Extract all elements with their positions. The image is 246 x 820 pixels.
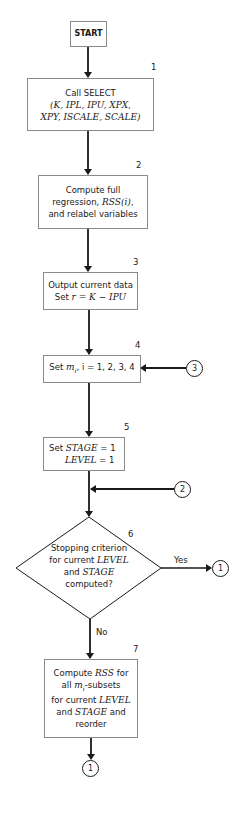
step-2-line-2-text: regression, (52, 197, 102, 207)
step-7-for-current: for current (51, 695, 99, 705)
step-3-number: 3 (133, 257, 138, 267)
step-7-all: all (62, 680, 75, 690)
step-2-index: (i), (121, 197, 134, 207)
connector-1-yes: 1 (212, 560, 229, 577)
step-4-line: Set mi, i = 1, 2, 3, 4 (49, 361, 134, 377)
no-label: No (96, 627, 108, 637)
step-7-and: and (56, 707, 75, 717)
step-7-line-5: reorder (75, 718, 106, 730)
step-7-m: m (74, 680, 83, 690)
step-6-and: and (64, 567, 83, 577)
step-1-line-2: (K, IPL, IPU, XPX, (50, 99, 131, 111)
step-5-number: 5 (124, 422, 129, 432)
step-3-set-text: Set (55, 292, 72, 302)
step-3-formula: r = K − IPU (72, 292, 127, 302)
step-6-stage: STAGE (82, 567, 114, 577)
step-7-stage: STAGE (75, 707, 107, 717)
step-7-for: for (114, 668, 128, 678)
step-7-subsets: -subsets (85, 680, 121, 690)
step-4-m: m (66, 362, 75, 372)
step-5-level-value: = 1 (97, 455, 115, 465)
connector-1-bottom: 1 (82, 760, 99, 777)
step-3-box: Output current data Set r = K − IPU (43, 272, 138, 310)
step-4-number: 4 (135, 340, 140, 350)
step-6-for-current: for current (49, 555, 97, 565)
step-5-set-text: Set (49, 443, 66, 453)
step-7-line-4: and STAGE and (56, 706, 125, 718)
step-2-rss: RSS (102, 197, 121, 207)
step-6-line-1: Stopping criterion (28, 542, 150, 554)
step-6-number: 6 (128, 529, 133, 539)
step-7-line-3: for current LEVEL (51, 694, 130, 706)
step-7-number: 7 (133, 644, 138, 654)
step-1-line-1: Call SELECT (65, 87, 116, 99)
step-5-stage-value: = 1 (98, 443, 116, 453)
step-2-number: 2 (136, 160, 141, 170)
connector-3: 3 (186, 360, 203, 377)
step-5-stage: STAGE (66, 443, 98, 453)
step-7-line-1: Compute RSS for (54, 667, 129, 679)
step-2-line-3: and relabel variables (48, 208, 137, 220)
connector-1-bottom-label: 1 (88, 764, 93, 773)
start-label: START (74, 28, 102, 40)
step-2-box: Compute full regression, RSS(i), and rel… (38, 175, 148, 229)
step-1-line-3: XPY, ISCALE, SCALE) (41, 111, 141, 123)
yes-label: Yes (174, 555, 188, 565)
step-7-line-2: all mi-subsets (62, 679, 121, 695)
step-6-level: LEVEL (97, 555, 129, 565)
step-3-line-1: Output current data (48, 279, 133, 291)
step-7-box: Compute RSS for all mi-subsets for curre… (44, 659, 138, 738)
connector-2: 2 (174, 481, 191, 498)
connector-3-label: 3 (192, 364, 197, 373)
step-5-level: LEVEL (65, 455, 97, 465)
connector-1-yes-label: 1 (218, 564, 223, 573)
step-1-box: Call SELECT (K, IPL, IPU, XPX, XPY, ISCA… (27, 78, 154, 131)
step-5-line-1: Set STAGE = 1 (49, 442, 116, 454)
step-7-level: LEVEL (99, 695, 131, 705)
step-2-line-2: regression, RSS(i), (52, 196, 133, 208)
step-1-number: 1 (151, 62, 156, 72)
step-6-decision: Stopping criterion for current LEVEL and… (28, 542, 150, 590)
connector-2-label: 2 (180, 485, 185, 494)
start-terminal: START (70, 21, 107, 47)
step-5-box: Set STAGE = 1 LEVEL = 1 (43, 437, 125, 471)
step-2-line-1: Compute full (66, 184, 121, 196)
step-6-line-2: for current LEVEL (28, 554, 150, 566)
step-6-line-4: computed? (28, 578, 150, 590)
step-4-range: , i = 1, 2, 3, 4 (77, 362, 135, 372)
step-6-line-3: and STAGE (28, 566, 150, 578)
step-4-box: Set mi, i = 1, 2, 3, 4 (43, 355, 141, 383)
step-5-line-2: LEVEL = 1 (49, 454, 115, 466)
step-4-set-text: Set (49, 362, 66, 372)
step-7-and-2: and (107, 707, 126, 717)
step-7-compute: Compute (54, 668, 95, 678)
step-3-line-2: Set r = K − IPU (55, 291, 126, 303)
step-7-rss: RSS (95, 668, 114, 678)
